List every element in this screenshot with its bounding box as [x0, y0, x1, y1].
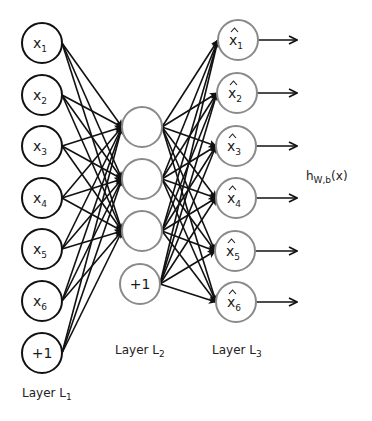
edge	[160, 284, 216, 302]
nodes: x1x2x3x4x5x6+1+1x1x2x3x4x5x6	[22, 20, 258, 373]
edge	[62, 179, 122, 353]
layer-label-l3: Layer L3	[212, 343, 262, 359]
edge	[62, 127, 122, 301]
node-l2-3	[122, 211, 162, 251]
edges-layer1-to-layer2	[62, 43, 122, 353]
edges-layer2-to-layer3	[160, 40, 218, 302]
layer-label-l2: Layer L2	[115, 343, 165, 359]
bias-node-l2-4: +1	[120, 264, 160, 304]
edge	[62, 95, 122, 127]
node-l3-2: x2	[217, 73, 257, 113]
edge	[162, 40, 218, 127]
node-l2-1	[122, 107, 162, 147]
output-arrows	[255, 40, 297, 302]
node-label: +1	[32, 345, 53, 361]
node-l3-5: x5	[215, 231, 255, 271]
node-l3-6: x6	[216, 282, 256, 322]
node-l1-4: x4	[22, 178, 62, 218]
node-l1-3: x3	[22, 126, 62, 166]
node-l1-6: x6	[22, 281, 62, 321]
node-l1-5: x5	[22, 229, 62, 269]
layer-label-l1: Layer L1	[22, 386, 72, 402]
edge	[62, 231, 122, 353]
node-l3-4: x4	[216, 178, 256, 218]
output-function-label: hW,b(x)	[306, 169, 348, 185]
node-l2-2	[122, 159, 162, 199]
node-l1-1: x1	[22, 23, 62, 63]
labels: Layer L1Layer L2Layer L3hW,b(x)	[22, 169, 348, 402]
edge	[62, 127, 122, 353]
bias-node-l1-7: +1	[22, 333, 62, 373]
node-l3-3: x3	[216, 126, 256, 166]
node-l1-2: x2	[22, 75, 62, 115]
autoencoder-diagram: x1x2x3x4x5x6+1+1x1x2x3x4x5x6 Layer L1Lay…	[0, 0, 372, 421]
network-diagram-svg: x1x2x3x4x5x6+1+1x1x2x3x4x5x6 Layer L1Lay…	[0, 0, 372, 421]
node-l3-1: x1	[218, 20, 258, 60]
node-label: +1	[130, 276, 151, 292]
